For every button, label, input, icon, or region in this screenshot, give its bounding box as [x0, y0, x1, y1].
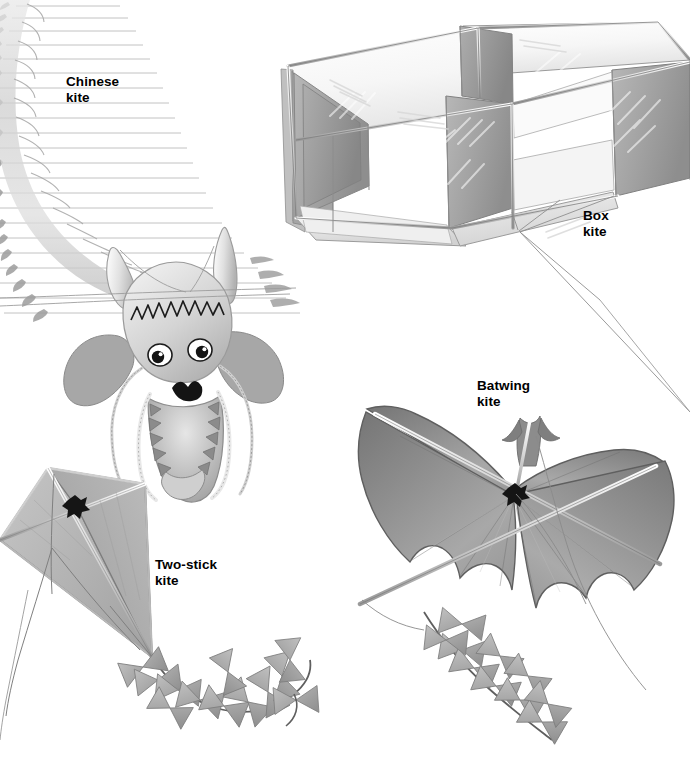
kites-illustration — [0, 0, 690, 760]
box-kite-front-right-wall — [446, 96, 513, 228]
box-kite-rear-left-wall — [460, 26, 513, 104]
label-batwing-kite: Batwing kite — [477, 378, 530, 409]
dragon-eye-right — [188, 339, 212, 361]
label-box-kite: Box kite — [583, 208, 609, 239]
dragon-eye-left — [148, 344, 172, 366]
label-chinese-kite: Chinese kite — [66, 74, 119, 105]
label-two-stick-kite: Two-stick kite — [155, 557, 217, 588]
